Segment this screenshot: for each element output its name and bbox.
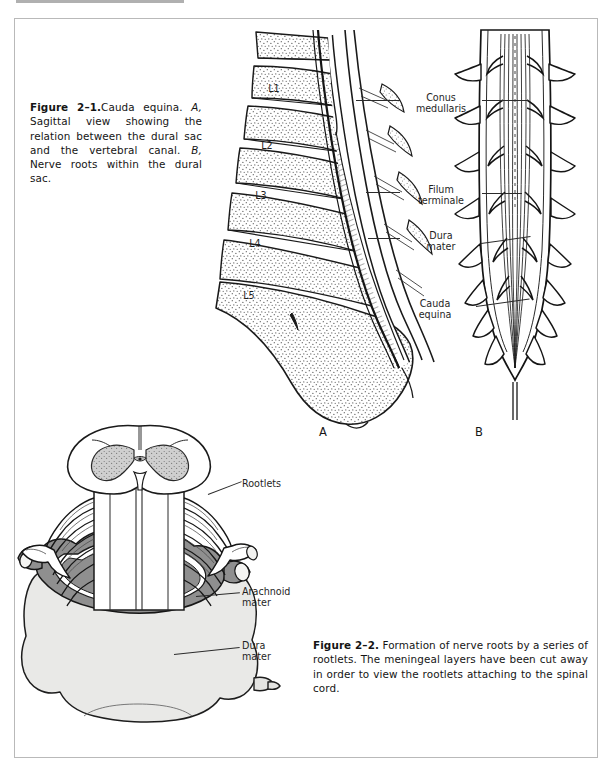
figure-2-1-caption-text-3: Nerve roots within the dural sac. [30, 158, 202, 184]
label-conus-medullaris: Conus medullaris [404, 92, 478, 115]
panel-letter-b: B [475, 425, 483, 439]
leader-filum-terminale-right [482, 193, 522, 194]
label-filum-terminale: Filum terminale [404, 184, 478, 207]
figure-2-2-caption: Figure 2–2. Formation of nerve roots by … [313, 638, 588, 694]
leader-conus-medullaris-left [356, 100, 400, 101]
figure-2-1-panel-b-illustration [455, 30, 575, 420]
leader-filum-terminale-left [366, 192, 400, 193]
leader-dura-mater-fig21-left [368, 238, 400, 239]
vertebra-label-l1: L1 [263, 83, 285, 94]
vertebra-label-l4: L4 [244, 238, 266, 249]
figure-2-1-number: Figure 2–1. [30, 101, 101, 113]
panel-letter-a: A [319, 425, 327, 439]
figure-2-1-caption-text-2: Sagittal view showing the relation betwe… [30, 115, 202, 155]
label-rootlets: Rootlets [242, 478, 312, 489]
figure-2-1-panel-b-marker: B, [191, 144, 202, 156]
vertebra-label-l5: L5 [238, 290, 260, 301]
leader-conus-medullaris-right [482, 100, 528, 101]
vertebra-label-l2: L2 [256, 140, 278, 151]
label-arachnoid-mater: Arachnoid mater [242, 586, 322, 609]
label-cauda-equina: Cauda equina [398, 298, 472, 321]
figure-2-2-illustration [18, 420, 288, 730]
figure-2-1-panel-a-marker: A, [191, 101, 202, 113]
figure-2-1-caption: Figure 2–1.Cauda equina. A, Sagittal vie… [30, 100, 202, 185]
label-dura-mater-fig21: Dura mater [404, 230, 478, 253]
label-dura-mater-fig22: Dura mater [242, 640, 312, 663]
vertebra-label-l3: L3 [250, 190, 272, 201]
scan-crop-artifact [16, 0, 184, 3]
figure-2-1-caption-text-1: Cauda equina. [101, 101, 191, 113]
figure-2-2-number: Figure 2–2. [313, 639, 379, 651]
